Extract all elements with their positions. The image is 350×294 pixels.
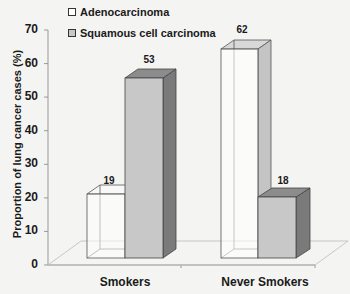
y-tick-label: 60 (14, 56, 38, 70)
bar-smokers-squamous (125, 69, 176, 258)
chart-plot (0, 0, 350, 294)
y-tick-label: 20 (14, 190, 38, 204)
legend-item-squamous: Squamous cell carcinoma (68, 27, 216, 39)
y-tick-label: 70 (14, 22, 38, 36)
legend-label: Adenocarcinoma (80, 6, 169, 18)
legend-swatch-gray (68, 29, 76, 37)
bar-never-squamous (258, 188, 310, 258)
x-category-never-smokers: Never Smokers (210, 275, 320, 289)
y-tick-label: 50 (14, 89, 38, 103)
value-label-smokers-adeno: 19 (94, 175, 124, 186)
value-label-never-squamous: 18 (268, 175, 298, 186)
value-label-never-adeno: 62 (227, 24, 257, 35)
y-tick-label: 30 (14, 156, 38, 170)
legend-swatch-white (68, 8, 76, 16)
y-tick-label: 0 (14, 257, 38, 271)
y-axis-label: Proportion of lung cancer cases (%) (11, 49, 23, 239)
x-category-smokers: Smokers (90, 275, 160, 289)
y-tick-label: 40 (14, 123, 38, 137)
y-axis-ticks (44, 30, 48, 265)
value-label-smokers-squamous: 53 (134, 54, 164, 65)
legend-item-adenocarcinoma: Adenocarcinoma (68, 6, 169, 18)
legend-label: Squamous cell carcinoma (80, 27, 216, 39)
y-tick-label: 10 (14, 223, 38, 237)
